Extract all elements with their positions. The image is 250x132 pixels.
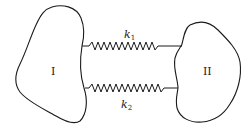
spring-1-subscript: 1: [131, 34, 135, 42]
spring-2-symbol: k: [121, 98, 128, 111]
spring-2: [85, 84, 178, 92]
body-2-label: II: [203, 66, 212, 77]
diagram-drawing: [0, 0, 250, 132]
spring-2-subscript: 2: [128, 104, 132, 112]
body-1-label: I: [51, 66, 55, 77]
spring-1: [82, 42, 182, 50]
diagram-canvas: I II k1 k2: [0, 0, 250, 132]
spring-2-label: k2: [121, 99, 132, 112]
spring-1-symbol: k: [124, 28, 131, 41]
spring-1-label: k1: [124, 29, 135, 42]
